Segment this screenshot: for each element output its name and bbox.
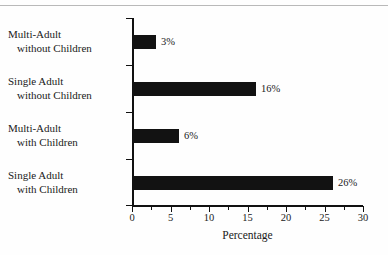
bar-chart-plot-area: 0 5 10 15 20 25 30 Multi-Adult without C… [0,0,388,255]
x-tick-label-0: 0 [117,212,147,224]
x-tick-minor-22-5 [305,206,306,210]
bar-value-multi-adult-without-children: 3% [161,35,175,49]
bar-multi-adult-without-children [133,35,156,49]
category-label-line2: with Children [8,183,128,197]
y-axis-tick-3 [126,159,132,160]
category-label-line1: Single Adult [8,75,128,89]
bar-value-single-adult-with-children: 26% [338,176,357,190]
chart-figure: 0 5 10 15 20 25 30 Multi-Adult without C… [0,0,388,255]
y-axis-tick-2 [126,112,132,113]
x-tick-label-5: 5 [156,212,186,224]
category-label-line2: with Children [8,136,128,150]
x-tick-minor-27-5 [344,206,345,210]
x-tick-minor-17-5 [267,206,268,210]
x-tick-label-20: 20 [271,212,301,224]
category-label-single-adult-without-children: Single Adult without Children [8,75,128,102]
bar-single-adult-without-children [133,82,256,96]
bar-value-multi-adult-with-children: 6% [184,129,198,143]
x-tick-label-15: 15 [233,212,263,224]
y-axis-tick-0 [126,18,132,19]
x-tick-label-30: 30 [348,212,378,224]
bar-value-single-adult-without-children: 16% [261,82,280,96]
bar-multi-adult-with-children [133,129,179,143]
x-axis-title: Percentage [132,229,363,241]
category-label-multi-adult-without-children: Multi-Adult without Children [8,28,128,55]
category-label-line2: without Children [8,42,128,56]
category-label-single-adult-with-children: Single Adult with Children [8,169,128,196]
x-tick-minor-12-5 [228,206,229,210]
x-tick-minor-2-5 [151,206,152,210]
category-label-line1: Multi-Adult [8,28,128,42]
category-label-multi-adult-with-children: Multi-Adult with Children [8,122,128,149]
bar-single-adult-with-children [133,176,333,190]
x-tick-label-25: 25 [310,212,340,224]
x-tick-minor-7-5 [190,206,191,210]
x-tick-label-10: 10 [194,212,224,224]
category-label-line2: without Children [8,89,128,103]
category-label-line1: Single Adult [8,169,128,183]
y-axis-tick-1 [126,65,132,66]
category-label-line1: Multi-Adult [8,122,128,136]
